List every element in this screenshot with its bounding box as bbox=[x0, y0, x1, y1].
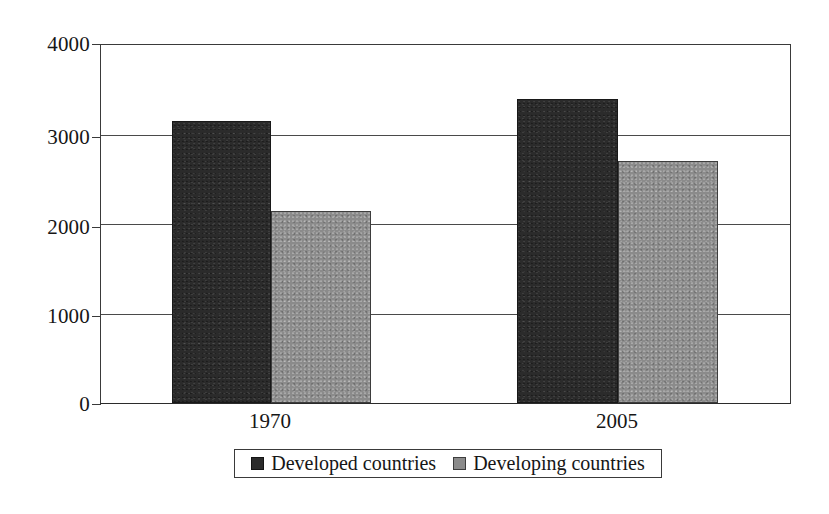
y-axis-tick-label-0: 0 bbox=[10, 394, 90, 415]
light-swatch-icon bbox=[453, 457, 466, 470]
y-axis-tick-label-4000: 4000 bbox=[10, 34, 90, 55]
y-axis-tick-label-1000: 1000 bbox=[10, 306, 90, 327]
bar-developing-2005 bbox=[618, 161, 718, 403]
chart-legend: Developed countries Developing countries bbox=[234, 449, 662, 478]
bar-chart: 4000 3000 2000 1000 0 1970 2005 Develope… bbox=[0, 0, 829, 514]
dark-swatch-icon bbox=[251, 457, 264, 470]
legend-entry-developing: Developing countries bbox=[453, 453, 645, 474]
legend-entry-developed: Developed countries bbox=[251, 453, 436, 474]
y-axis-tick-label-3000: 3000 bbox=[10, 127, 90, 148]
legend-label-developed: Developed countries bbox=[271, 453, 436, 474]
plot-area bbox=[100, 44, 791, 404]
bar-developed-1970 bbox=[172, 121, 271, 403]
x-axis-tick-label-2005: 2005 bbox=[537, 410, 697, 432]
legend-label-developing: Developing countries bbox=[473, 453, 645, 474]
y-axis-tick-label-2000: 2000 bbox=[10, 217, 90, 238]
x-axis-tick-label-1970: 1970 bbox=[190, 410, 350, 432]
bar-developed-2005 bbox=[517, 99, 618, 403]
y-axis-tick-mark-0 bbox=[92, 404, 101, 405]
bar-developing-1970 bbox=[271, 211, 371, 403]
